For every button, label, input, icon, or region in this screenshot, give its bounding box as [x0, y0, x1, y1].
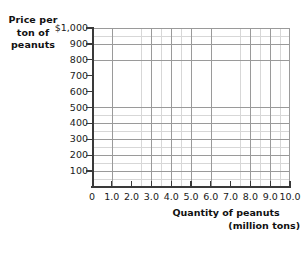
y-axis-tick-mark: [86, 91, 93, 92]
y-axis-tick-label: 200: [54, 150, 88, 160]
y-axis-tick-mark: [86, 139, 93, 140]
y-axis-tick-mark: [86, 123, 93, 124]
x-axis-tick-mark: [270, 181, 271, 188]
x-axis-tick-labels: 01.02.03.04.05.06.07.08.09.010.0: [0, 191, 308, 205]
plot-border: [92, 28, 290, 187]
y-axis-tick-label: 100: [54, 166, 88, 176]
y-axis-tick-mark: [86, 43, 93, 44]
y-axis-tick-label: 400: [54, 118, 88, 128]
y-axis-tick-mark: [86, 27, 93, 28]
y-axis-tick-label: 900: [54, 39, 88, 49]
plot-area: [92, 28, 290, 187]
x-axis-tick-mark: [131, 181, 132, 188]
y-axis-tick-mark: [86, 59, 93, 60]
x-axis-title-line-2: (million tons): [150, 220, 302, 233]
x-axis-title-line-1: Quantity of peanuts: [172, 207, 279, 218]
y-axis-tick-label: 600: [54, 87, 88, 97]
x-axis-tick-label: 10.0: [275, 191, 305, 202]
x-axis-tick-mark: [151, 181, 152, 188]
x-axis-tick-mark: [230, 181, 231, 188]
y-axis-tick-mark: [86, 75, 93, 76]
y-axis-tick-label: 700: [54, 71, 88, 81]
y-axis-tick-label: 500: [54, 103, 88, 113]
y-axis-tick-mark: [86, 155, 93, 156]
graph-figure: Price per ton of peanuts $1,000900800700…: [0, 0, 308, 261]
y-axis-tick-label: $1,000: [54, 23, 88, 33]
x-axis-tick-mark: [111, 181, 112, 188]
x-axis-tick-mark: [190, 181, 191, 188]
x-axis-tick-mark: [250, 181, 251, 188]
y-axis-tick-labels: $1,000900800700600500400300200100: [58, 0, 92, 261]
x-axis-tick-mark: [289, 181, 290, 188]
y-axis-tick-label: 800: [54, 55, 88, 65]
y-axis-tick-mark: [86, 107, 93, 108]
x-axis-tick-mark: [210, 181, 211, 188]
x-axis-title: Quantity of peanuts (million tons): [150, 207, 302, 232]
y-axis-tick-label: 300: [54, 134, 88, 144]
y-axis-tick-mark: [86, 170, 93, 171]
x-axis-tick-mark: [171, 181, 172, 188]
